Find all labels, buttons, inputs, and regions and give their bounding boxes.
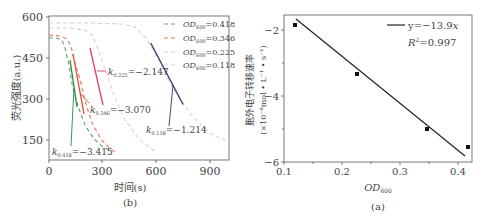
chart-a-x-ticks [284,162,458,165]
chart-a-xtick-0.3: 0.3 [392,166,408,177]
data-point-0.118 [293,23,297,27]
chart-a-y-axis-label-line2: (×10⁻⁸mol • L⁻¹ • s⁻¹) [259,45,268,134]
fit-line-0.118-rendered [151,43,183,105]
chart-a-ytick-neg2: −2 [264,25,279,36]
data-point-0.418 [466,145,470,149]
legend-fit-label: y=−13.9x [407,20,459,31]
chart-a-xtick-0.2: 0.2 [334,166,350,177]
chart-a-y-ticks [281,30,284,162]
chart-a-legend: y=−13.9x R2=0.997 [387,20,459,48]
chart-b-overlay [0,0,240,222]
chart-a-x-axis-label: OD600 [364,182,392,194]
chart-a-electron-transfer-rate: −2 −4 −6 0.1 0.2 0.3 0.4 OD600 胞外电子转移速率 … [240,0,483,222]
chart-a-xtick-0.1: 0.1 [276,166,292,177]
chart-a-caption: (a) [371,201,385,212]
data-point-0.225 [355,72,359,76]
chart-a-y-axis-label-line1: 胞外电子转移速率 [244,54,255,126]
legend-r2-label: R2=0.997 [407,36,456,48]
data-point-0.346 [425,127,429,131]
chart-a-xtick-0.4: 0.4 [450,166,466,177]
